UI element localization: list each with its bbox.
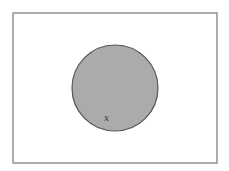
set-circle — [72, 45, 158, 131]
element-label-x: x — [104, 113, 109, 123]
venn-diagram: x — [0, 0, 229, 171]
